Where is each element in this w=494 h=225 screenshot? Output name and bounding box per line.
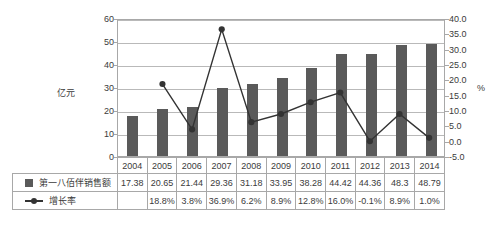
- category-header-2011: 2011: [326, 158, 356, 174]
- right-axis-tick-mark: [445, 50, 449, 51]
- line-series: [118, 20, 444, 156]
- right-axis-tick-label: 25.0: [449, 61, 467, 70]
- data-cell: -0.1%: [355, 192, 385, 210]
- right-axis-tick-label: -5.0: [449, 153, 465, 162]
- data-cell: 1.0%: [415, 192, 445, 210]
- right-axis-tick-label: 35.0: [449, 30, 467, 39]
- right-axis-tick-mark: [445, 65, 449, 66]
- left-value-axis: 0102030405060: [84, 19, 114, 157]
- right-axis-unit-label: %: [477, 83, 485, 93]
- data-cell: 38.28: [296, 174, 326, 192]
- right-axis-tick-mark: [445, 34, 449, 35]
- data-cell: 21.44: [177, 174, 207, 192]
- category-header-2006: 2006: [177, 158, 207, 174]
- plot-area: [117, 19, 445, 157]
- data-cell: 17.38: [118, 174, 148, 192]
- line-data-point-marker: [159, 81, 165, 87]
- line-data-point-marker: [219, 26, 225, 32]
- right-axis-tick-label: 5.0: [449, 122, 462, 131]
- legend-row-header: 增长率: [13, 192, 118, 210]
- category-header-2008: 2008: [236, 158, 266, 174]
- data-cell: 18.8%: [147, 192, 177, 210]
- left-axis-tick-label: 50: [104, 38, 114, 47]
- data-cell: 48.3: [385, 174, 415, 192]
- right-axis-tick-mark: [445, 111, 449, 112]
- data-cell: 44.36: [355, 174, 385, 192]
- data-cell: 44.42: [326, 174, 356, 192]
- table-row: 增长率18.8%3.8%36.9%6.2%8.9%12.8%16.0%-0.1%…: [13, 192, 445, 210]
- chart-figure: 0102030405060 亿元 -5.00.05.010.015.020.02…: [0, 0, 494, 225]
- category-header-2014: 2014: [415, 158, 445, 174]
- left-axis-tick-label: 30: [104, 84, 114, 93]
- line-data-point-marker: [278, 111, 284, 117]
- line-data-point-marker: [426, 135, 432, 141]
- category-header-2004: 2004: [118, 158, 148, 174]
- square-swatch-icon: [25, 179, 33, 187]
- line-marker-icon: [25, 197, 43, 205]
- left-axis-tick-label: 10: [104, 130, 114, 139]
- right-axis-tick-label: 10.0: [449, 107, 467, 116]
- data-cell: 8.9%: [385, 192, 415, 210]
- line-data-point-marker: [396, 111, 402, 117]
- legend-label: 增长率: [49, 194, 76, 207]
- line-data-point-marker: [308, 99, 314, 105]
- right-axis-tick-label: 0.0: [449, 137, 462, 146]
- legend-key: 增长率: [17, 194, 116, 207]
- growth-rate-line: [162, 29, 429, 141]
- data-cell: 33.95: [266, 174, 296, 192]
- right-axis-tick-mark: [445, 96, 449, 97]
- right-axis-tick-mark: [445, 142, 449, 143]
- data-cell: 16.0%: [326, 192, 356, 210]
- table-row: 第一八佰伴销售额17.3820.6521.4429.3631.1833.9538…: [13, 174, 445, 192]
- legend-label: 第一八佰伴销售额: [39, 176, 111, 189]
- left-axis-tick-label: 20: [104, 107, 114, 116]
- category-header-2005: 2005: [147, 158, 177, 174]
- data-cell: 48.79: [415, 174, 445, 192]
- line-data-point-marker: [337, 89, 343, 95]
- data-cell: 36.9%: [207, 192, 237, 210]
- data-cell: 12.8%: [296, 192, 326, 210]
- table-header-row: 2004200520062007200820092010201120122013…: [13, 158, 445, 174]
- right-axis-tick-label: 40.0: [449, 15, 467, 24]
- data-cell: 3.8%: [177, 192, 207, 210]
- category-header-2012: 2012: [355, 158, 385, 174]
- data-cell: [118, 192, 148, 210]
- data-cell: 20.65: [147, 174, 177, 192]
- right-axis-tick-label: 20.0: [449, 76, 467, 85]
- data-cell: 31.18: [236, 174, 266, 192]
- right-axis-tick-label: 30.0: [449, 45, 467, 54]
- right-axis-tick-mark: [445, 19, 449, 20]
- data-cell: 6.2%: [236, 192, 266, 210]
- category-header-2007: 2007: [207, 158, 237, 174]
- category-header-2013: 2013: [385, 158, 415, 174]
- right-axis-tick-mark: [445, 126, 449, 127]
- legend-row-header: 第一八佰伴销售额: [13, 174, 118, 192]
- left-axis-tick-label: 60: [104, 15, 114, 24]
- right-axis-tick-mark: [445, 80, 449, 81]
- line-data-point-marker: [367, 138, 373, 144]
- right-axis-tick-mark: [445, 157, 449, 158]
- category-header-2010: 2010: [296, 158, 326, 174]
- left-axis-tick-label: 40: [104, 61, 114, 70]
- category-header-2009: 2009: [266, 158, 296, 174]
- data-table: 2004200520062007200820092010201120122013…: [12, 157, 445, 210]
- right-axis-tick-label: 15.0: [449, 91, 467, 100]
- legend-key: 第一八佰伴销售额: [17, 176, 116, 189]
- data-cell: 29.36: [207, 174, 237, 192]
- line-data-point-marker: [248, 119, 254, 125]
- data-cell: 8.9%: [266, 192, 296, 210]
- left-axis-unit-label: 亿元: [57, 88, 75, 98]
- line-data-point-marker: [189, 126, 195, 132]
- table-corner-cell: [13, 158, 118, 174]
